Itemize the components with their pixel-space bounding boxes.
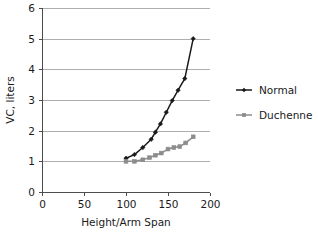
data-point [154, 153, 158, 157]
data-point [159, 151, 163, 155]
x-axis-title: Height/Arm Span [81, 216, 171, 228]
data-point [148, 156, 152, 160]
x-tick-label-150: 150 [158, 198, 178, 210]
y-tick-label-4: 4 [28, 63, 35, 75]
legend-label: Duchenne [259, 109, 312, 121]
data-point [184, 141, 188, 145]
y-tick-label-0: 0 [28, 186, 35, 198]
y-tick-label-5: 5 [28, 33, 35, 45]
chart-container: 0123456 050100150200 VC, liters Height/A… [0, 0, 318, 239]
x-tick-label-50: 50 [78, 198, 91, 210]
data-point [166, 147, 170, 151]
data-point [133, 159, 137, 163]
legend-label: Normal [259, 84, 297, 96]
data-point [172, 146, 176, 150]
data-point [124, 159, 128, 163]
data-point [141, 158, 145, 162]
x-tick-label-0: 0 [39, 198, 46, 210]
y-tick-label-6: 6 [28, 2, 35, 14]
y-axis-title: VC, liters [4, 76, 16, 123]
y-tick-label-2: 2 [28, 125, 35, 137]
vital-capacity-line-chart: 0123456 050100150200 VC, liters Height/A… [0, 0, 318, 239]
x-tick-label-100: 100 [116, 198, 136, 210]
x-tick-label-200: 200 [200, 198, 220, 210]
data-point [178, 145, 182, 149]
legend-marker [242, 113, 246, 117]
y-tick-label-3: 3 [28, 94, 35, 106]
y-tick-label-1: 1 [28, 155, 35, 167]
data-point [191, 135, 195, 139]
